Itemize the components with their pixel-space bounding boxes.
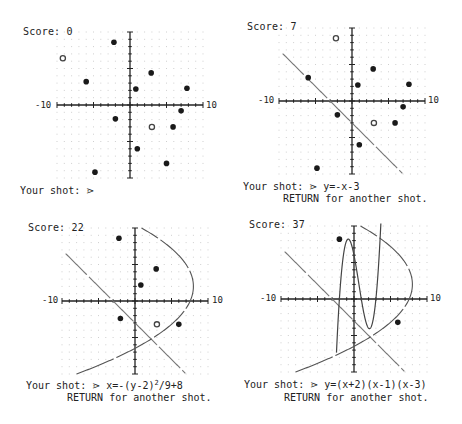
game-panel-1: Score: 0 -10 10 Your shot: ⋗ xyxy=(0,0,231,212)
shot-prompt[interactable]: Your shot: ⋗ x=-(y-2)2/9+8 xyxy=(26,379,183,391)
target xyxy=(83,79,89,85)
shot-input[interactable]: x=-(y-2)2/9+8 xyxy=(106,380,182,391)
shot-prompt[interactable]: Your shot: ⋗ xyxy=(20,185,94,196)
target xyxy=(355,82,361,88)
score-value: 0 xyxy=(67,26,73,37)
shot-text-suffix: /9+8 xyxy=(159,380,183,391)
score-label: Score: xyxy=(247,21,284,32)
score-value: 37 xyxy=(293,219,305,230)
target xyxy=(153,266,159,272)
target xyxy=(400,104,406,110)
target xyxy=(118,316,124,322)
x-max-label: 10 xyxy=(428,95,439,105)
x-min-label: -10 xyxy=(42,295,58,305)
score-value: 22 xyxy=(72,222,84,233)
score-display: Score: 37 xyxy=(249,219,305,230)
target xyxy=(184,85,190,91)
shot-prompt[interactable]: Your shot: ⋗ y=-x-3 xyxy=(243,181,359,192)
shot-input[interactable]: y=-x-3 xyxy=(323,181,359,192)
target xyxy=(113,116,119,122)
game-panel-2: Score: 7 -10 10 Your shot: ⋗ y=-x-3 RETU… xyxy=(231,0,462,212)
target-hit xyxy=(333,36,338,41)
x-max-label: 10 xyxy=(206,100,217,110)
prompt-label: Your shot: xyxy=(26,380,86,391)
shot-input[interactable]: y=(x+2)(x-1)(x-3) xyxy=(324,379,426,390)
game-panel-4: Score: 37 -10 10 Your shot: ⋗ y=(x+2)(x-… xyxy=(231,212,462,424)
target xyxy=(305,75,311,81)
shot-line-curve xyxy=(283,54,403,174)
score-display: Score: 0 xyxy=(23,26,73,37)
target xyxy=(178,108,184,114)
target-hit xyxy=(149,124,154,129)
shot-cubic-curve xyxy=(336,223,380,352)
target xyxy=(135,146,141,152)
x-min-label: -10 xyxy=(260,293,276,303)
target xyxy=(148,70,154,76)
target xyxy=(111,39,117,45)
score-display: Score: 22 xyxy=(28,222,84,233)
target xyxy=(337,236,343,242)
target xyxy=(314,165,320,171)
prompt-label: Your shot: xyxy=(244,379,304,390)
return-message: RETURN for another shot. xyxy=(283,193,428,204)
prompt-cursor-icon: ⋗ xyxy=(86,185,94,196)
target xyxy=(335,112,341,118)
target xyxy=(116,235,122,241)
shot-text: x=-(y-2) xyxy=(106,380,154,391)
prompt-cursor-icon: ⋗ xyxy=(310,379,318,390)
target-hit xyxy=(60,56,65,61)
target xyxy=(406,81,412,87)
target-hit xyxy=(371,120,376,125)
target xyxy=(138,282,144,288)
score-label: Score: xyxy=(249,219,286,230)
target xyxy=(370,66,376,72)
target xyxy=(92,169,98,175)
target xyxy=(357,142,363,148)
shot-prompt[interactable]: Your shot: ⋗ y=(x+2)(x-1)(x-3) xyxy=(244,379,427,390)
score-value: 7 xyxy=(291,21,297,32)
x-min-label: -10 xyxy=(258,95,274,105)
target xyxy=(395,320,401,326)
prompt-cursor-icon: ⋗ xyxy=(309,181,317,192)
return-message: RETURN for another shot. xyxy=(67,392,212,403)
x-max-label: 10 xyxy=(212,295,223,305)
target xyxy=(164,161,170,167)
prompt-label: Your shot: xyxy=(243,181,303,192)
shot-line-curve xyxy=(66,254,186,374)
target xyxy=(176,322,182,328)
target-hit xyxy=(154,322,159,327)
game-panel-3: Score: 22 -10 10 Your shot: ⋗ x=-(y-2)2/… xyxy=(0,212,231,424)
score-display: Score: 7 xyxy=(247,21,297,32)
x-min-label: -10 xyxy=(35,100,51,110)
score-label: Score: xyxy=(23,26,60,37)
target xyxy=(392,120,398,126)
shot-line-curve xyxy=(285,252,405,372)
score-label: Score: xyxy=(28,222,65,233)
target xyxy=(170,124,176,130)
return-message: RETURN for another shot. xyxy=(284,392,429,403)
target xyxy=(133,86,139,92)
x-max-label: 10 xyxy=(430,293,441,303)
prompt-label: Your shot: xyxy=(20,185,80,196)
prompt-cursor-icon: ⋗ xyxy=(92,380,100,391)
